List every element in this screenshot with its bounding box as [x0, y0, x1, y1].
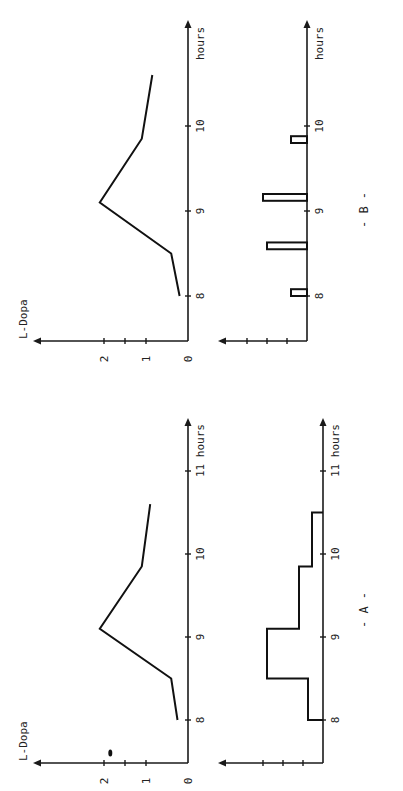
caption-panel-a: - A - — [357, 592, 371, 628]
x-tick-label: 8 — [329, 717, 342, 724]
x-axis-arrow — [185, 418, 192, 426]
x-tick-label: hours — [194, 27, 207, 60]
x-tick-label: 10 — [194, 547, 207, 560]
figure: - B - - A - 891011 hours012L-Dopa891011 … — [0, 0, 403, 791]
annotation-mark — [108, 750, 112, 757]
x-tick-label: 9 — [194, 634, 207, 641]
x-tick-label: 10 — [194, 119, 207, 132]
y-axis-arrow — [218, 338, 226, 345]
x-tick-label: 8 — [313, 293, 326, 300]
infusion-bar — [291, 136, 307, 143]
A-infusion-chart: 891011 hours — [218, 418, 342, 767]
y-tick-label: 2 — [98, 356, 111, 363]
infusion-step-line — [267, 513, 323, 721]
y-axis-title: L-Dopa — [17, 299, 30, 339]
concentration-line — [100, 75, 180, 296]
infusion-bar — [291, 289, 307, 296]
B-concentration-chart: 8910hours012L-Dopa — [17, 20, 207, 362]
y-axis-arrow — [33, 338, 41, 345]
infusion-bar — [263, 194, 307, 201]
x-tick-label: 8 — [194, 293, 207, 300]
x-tick-label: 8 — [194, 717, 207, 724]
x-tick-label: 9 — [329, 634, 342, 641]
infusion-bar — [267, 242, 307, 249]
y-tick-label: 1 — [140, 356, 153, 363]
A-concentration-chart: 891011 hours012L-Dopa — [17, 418, 207, 784]
y-tick-label: 1 — [140, 778, 153, 785]
x-tick-label: 9 — [313, 208, 326, 215]
x-axis-arrow — [304, 20, 311, 28]
x-tick-label: 10 — [313, 119, 326, 132]
y-tick-label: 0 — [182, 356, 195, 363]
caption-panel-b: - B - — [357, 192, 371, 228]
x-tick-label: 11 hours — [329, 424, 342, 477]
x-tick-label: 11 hours — [194, 424, 207, 477]
concentration-line — [100, 504, 178, 720]
B-infusion-chart: 8910hours — [218, 20, 326, 345]
x-tick-label: 10 — [329, 547, 342, 560]
x-tick-label: hours — [313, 27, 326, 60]
x-axis-arrow — [185, 20, 192, 28]
y-axis-arrow — [218, 760, 226, 767]
y-tick-label: 2 — [98, 778, 111, 785]
y-tick-label: 0 — [182, 778, 195, 785]
y-axis-arrow — [33, 760, 41, 767]
y-axis-title: L-Dopa — [17, 721, 30, 761]
x-axis-arrow — [320, 418, 327, 426]
chart-layer: 891011 hours012L-Dopa891011 hours8910hou… — [17, 20, 342, 784]
x-tick-label: 9 — [194, 208, 207, 215]
